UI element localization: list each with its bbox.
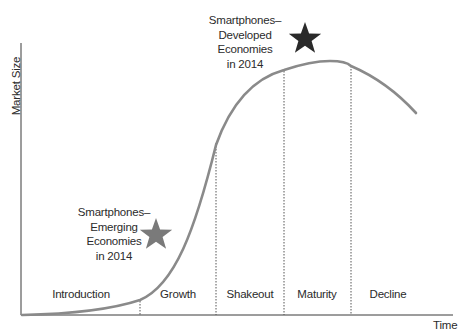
developed-line-1: Smartphones–: [209, 13, 281, 28]
stage-decline: Decline: [370, 288, 407, 300]
developed-star-icon: [289, 22, 321, 53]
x-axis-label: Time: [433, 319, 457, 331]
developed-line-3: Economies: [209, 42, 281, 57]
emerging-line-1: Smartphones–: [78, 205, 150, 220]
emerging-line-2: Emerging: [78, 220, 150, 235]
stage-shakeout: Shakeout: [227, 288, 274, 300]
developed-line-2: Developed: [209, 28, 281, 43]
emerging-line-4: in 2014: [78, 249, 150, 264]
stage-growth: Growth: [160, 288, 196, 300]
life-cycle-curve: [22, 61, 416, 315]
emerging-annotation: Smartphones– Emerging Economies in 2014: [78, 205, 150, 263]
stage-introduction: Introduction: [52, 288, 110, 300]
developed-annotation: Smartphones– Developed Economies in 2014: [209, 13, 281, 71]
emerging-line-3: Economies: [78, 234, 150, 249]
y-axis-label: Market Size: [10, 56, 22, 116]
stage-maturity: Maturity: [297, 288, 336, 300]
developed-line-4: in 2014: [209, 57, 281, 72]
